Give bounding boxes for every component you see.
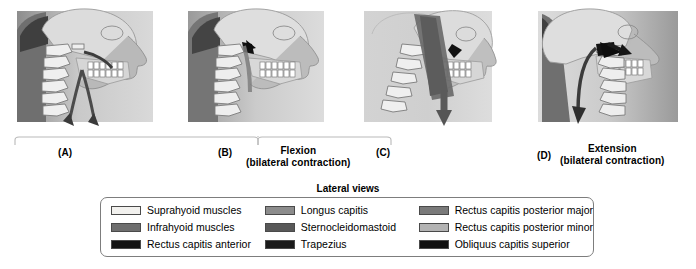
legend-item-label: Sternocleidomastoid xyxy=(301,221,396,233)
panel-a-letter: (A) xyxy=(58,147,72,158)
suprahyoid-muscles-swatch-icon xyxy=(111,206,141,215)
legend-column-2: Longus capitis Sternocleidomastoid Trape… xyxy=(265,202,419,252)
legend-item: Rectus capitis posterior major xyxy=(419,202,593,218)
panel-c-illustration xyxy=(336,0,504,132)
panel-b-letter: (B) xyxy=(218,147,232,158)
rectus-capitis-posterior-major-swatch-icon xyxy=(419,206,449,215)
panel-b-caption: (B) xyxy=(218,147,232,159)
obliquus-capitis-superior-swatch-icon xyxy=(419,240,449,249)
panel-b-subtitle: (bilateral contraction) xyxy=(246,157,351,169)
panel-d-caption-text: Extension (bilateral contraction) xyxy=(560,143,665,166)
legend-column-3: Rectus capitis posterior major Rectus ca… xyxy=(419,202,593,252)
legend-item: Rectus capitis posterior minor xyxy=(419,219,593,235)
panel-b-illustration xyxy=(168,0,336,132)
panel-c-letter: (C) xyxy=(376,147,390,158)
legend-item-label: Infrahyoid muscles xyxy=(147,221,235,233)
panel-d-subtitle: (bilateral contraction) xyxy=(560,155,665,167)
panel-d-title: Extension xyxy=(560,143,665,155)
lateral-views-title: Lateral views xyxy=(0,183,696,194)
legend-item-label: Trapezius xyxy=(301,238,347,250)
legend-item-label: Rectus capitis anterior xyxy=(147,238,251,250)
legend-item: Trapezius xyxy=(265,236,419,252)
muscle-legend: Suprahyoid muscles Infrahyoid muscles Re… xyxy=(100,197,594,257)
longus-capitis-swatch-icon xyxy=(265,206,295,215)
panel-b-caption-text: Flexion (bilateral contraction) xyxy=(246,145,351,168)
legend-item: Obliquus capitis superior xyxy=(419,236,593,252)
legend-item-label: Suprahyoid muscles xyxy=(147,204,242,216)
sternocleidomastoid-swatch-icon xyxy=(265,223,295,232)
panel-d-caption: (D) xyxy=(537,150,551,162)
legend-item: Longus capitis xyxy=(265,202,419,218)
panel-c-caption: (C) xyxy=(376,147,390,159)
rectus-capitis-anterior-swatch-icon xyxy=(111,240,141,249)
legend-item-label: Obliquus capitis superior xyxy=(455,238,570,250)
panel-a-illustration xyxy=(2,0,170,132)
legend-item-label: Rectus capitis posterior minor xyxy=(455,221,593,233)
trapezius-swatch-icon xyxy=(265,240,295,249)
legend-item-label: Rectus capitis posterior major xyxy=(455,204,593,216)
panel-d-illustration xyxy=(504,0,694,132)
rectus-capitis-posterior-minor-swatch-icon xyxy=(419,223,449,232)
legend-item: Sternocleidomastoid xyxy=(265,219,419,235)
infrahyoid-muscles-swatch-icon xyxy=(111,223,141,232)
panel-d-letter: (D) xyxy=(537,150,551,161)
legend-item: Rectus capitis anterior xyxy=(111,236,265,252)
legend-item-label: Longus capitis xyxy=(301,204,368,216)
legend-item: Suprahyoid muscles xyxy=(111,202,265,218)
panel-a-caption: (A) xyxy=(58,147,72,159)
flexion-group-bracket xyxy=(14,132,392,142)
panel-b-title: Flexion xyxy=(246,145,351,157)
cervical-muscles-figure: (A) (B) Flexion (bilateral contraction) … xyxy=(0,0,696,269)
legend-item: Infrahyoid muscles xyxy=(111,219,265,235)
legend-column-1: Suprahyoid muscles Infrahyoid muscles Re… xyxy=(111,202,265,252)
